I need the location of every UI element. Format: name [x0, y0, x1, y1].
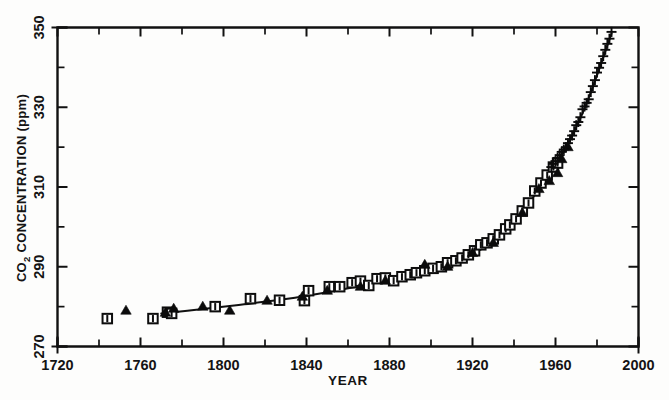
y-tick-label: 350 [31, 15, 47, 39]
data-point-square [275, 295, 285, 305]
x-tick-label: 1920 [456, 357, 488, 373]
x-tick-label: 1960 [539, 357, 571, 373]
data-point-plus [600, 45, 610, 55]
data-point-square [103, 314, 113, 324]
y-axis-tick-labels: 270290310330350 [31, 15, 47, 358]
x-axis-ticks-top [58, 28, 639, 37]
x-axis-tick-labels: 17201760180018401880192019602000 [41, 357, 654, 373]
x-axis-title: YEAR [328, 373, 368, 388]
data-point-plus [604, 34, 614, 44]
data-point-plus [596, 58, 606, 68]
data-point-plus [598, 51, 608, 61]
x-tick-label: 1800 [207, 357, 239, 373]
plot-frame [58, 28, 639, 347]
y-axis-title: CO2 CONCENTRATION (ppm) [14, 94, 32, 282]
triangle-marker [262, 295, 273, 304]
data-point-plus [588, 81, 598, 91]
data-point-plus [592, 68, 602, 78]
y-tick-label: 310 [31, 175, 47, 199]
data-point-square [304, 286, 314, 296]
data-point-plus [590, 75, 600, 85]
y-axis-ticks-right [629, 28, 639, 347]
triangle-marker [121, 305, 132, 314]
y-tick-label: 330 [31, 95, 47, 119]
y-tick-label: 270 [31, 334, 47, 358]
data-point-square [524, 198, 534, 208]
y-axis-ticks-left [52, 28, 68, 347]
co2-concentration-figure: 17201760180018401880192019602000 2702903… [0, 0, 669, 400]
triangle-marker [198, 301, 209, 310]
data-point-square [246, 294, 256, 304]
y-tick-label: 290 [31, 255, 47, 279]
x-tick-label: 1840 [290, 357, 322, 373]
data-point-square [335, 282, 345, 292]
data-point-square [148, 314, 158, 324]
chart-canvas: 17201760180018401880192019602000 2702903… [0, 0, 669, 400]
x-axis-title-group: YEAR [328, 373, 368, 388]
series-mauna-loa-plus [546, 27, 616, 172]
y-axis-title-main: CO [14, 262, 29, 282]
data-point-plus [602, 39, 612, 49]
x-axis-ticks-bottom [58, 337, 639, 354]
x-tick-label: 1760 [124, 357, 156, 373]
x-tick-label: 2000 [622, 357, 654, 373]
y-axis-title-group: CO2 CONCENTRATION (ppm) [14, 94, 32, 282]
data-point-plus [594, 63, 604, 73]
x-tick-label: 1880 [373, 357, 405, 373]
y-axis-title-rest: CONCENTRATION (ppm) [14, 94, 29, 256]
data-point-square [210, 302, 220, 312]
data-point-plus [586, 87, 596, 97]
